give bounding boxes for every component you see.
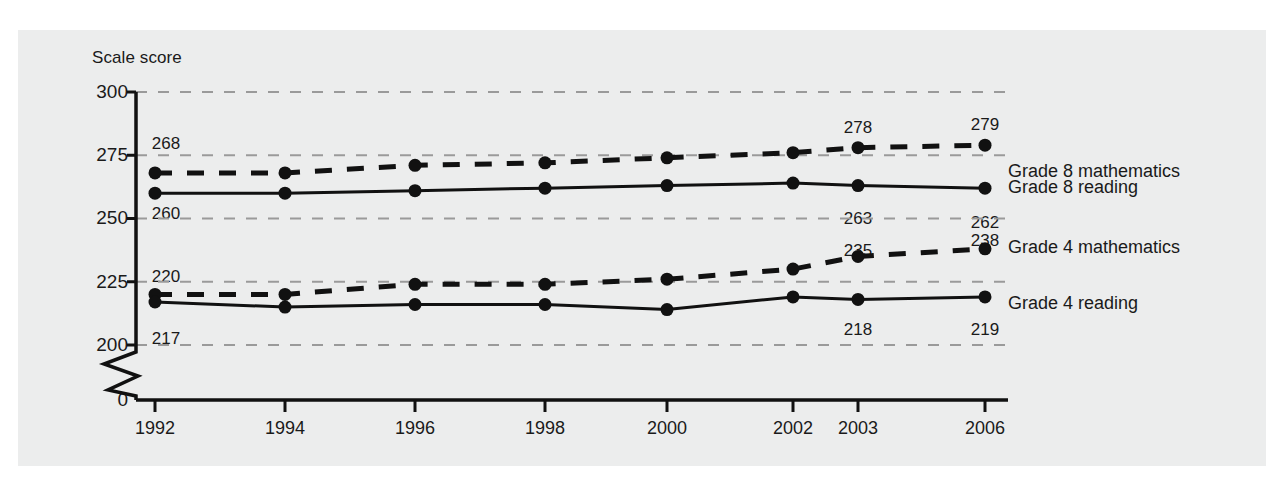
data-point-grade-4-mathematics-1994 [279, 288, 292, 301]
data-point-grade-8-reading-1994 [279, 187, 292, 200]
data-point-grade-8-reading-2000 [661, 179, 674, 192]
data-point-grade-4-reading-1992 [149, 295, 162, 308]
data-point-grade-8-reading-2006 [979, 182, 992, 195]
data-point-grade-4-mathematics-2002 [787, 263, 800, 276]
data-point-grade-4-reading-1996 [409, 298, 422, 311]
data-point-grade-8-mathematics-1992 [149, 166, 162, 179]
data-point-grade-8-reading-1996 [409, 184, 422, 197]
data-point-grade-4-mathematics-2006 [979, 242, 992, 255]
data-point-grade-4-mathematics-1998 [539, 278, 552, 291]
data-point-grade-8-mathematics-1998 [539, 156, 552, 169]
data-point-grade-8-mathematics-2002 [787, 146, 800, 159]
y-axis-line-with-break [104, 92, 138, 400]
axes-group [104, 92, 1008, 400]
data-point-grade-4-mathematics-2003 [852, 250, 865, 263]
data-point-grade-8-reading-2002 [787, 177, 800, 190]
data-point-grade-4-reading-2003 [852, 293, 865, 306]
data-point-grade-4-reading-2002 [787, 290, 800, 303]
chart-figure: Scale score 300 275 250 225 200 0 1992 1… [0, 0, 1286, 482]
data-point-grade-8-reading-1992 [149, 187, 162, 200]
data-point-grade-4-reading-1998 [539, 298, 552, 311]
data-point-grade-8-mathematics-2006 [979, 139, 992, 152]
data-point-grade-4-mathematics-2000 [661, 273, 674, 286]
data-point-grade-8-reading-1998 [539, 182, 552, 195]
data-point-grade-4-reading-2006 [979, 290, 992, 303]
data-point-grade-8-mathematics-1996 [409, 159, 422, 172]
data-point-grade-4-reading-1994 [279, 301, 292, 314]
data-point-grade-8-reading-2003 [852, 179, 865, 192]
series-dots-group [149, 139, 992, 316]
data-point-grade-8-mathematics-2000 [661, 151, 674, 164]
data-point-grade-4-mathematics-1996 [409, 278, 422, 291]
x-tick-marks-group [155, 400, 985, 412]
data-point-grade-8-mathematics-1994 [279, 166, 292, 179]
chart-plot-svg [0, 0, 1286, 482]
data-point-grade-8-mathematics-2003 [852, 141, 865, 154]
data-point-grade-4-reading-2000 [661, 303, 674, 316]
